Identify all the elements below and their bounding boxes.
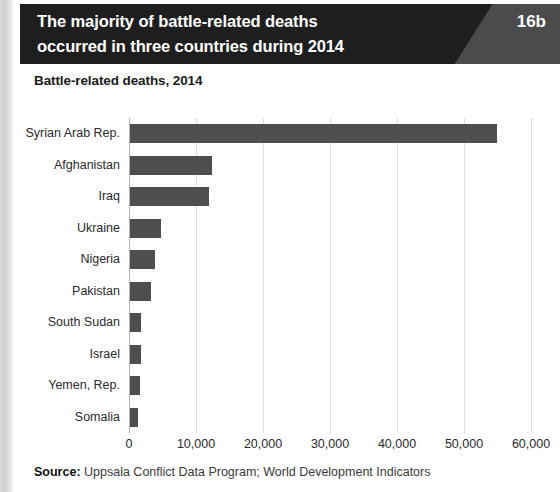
bar-row: South Sudan [129,307,532,339]
bar-chart-plot-area: Syrian Arab Rep.AfghanistanIraqUkraineNi… [129,118,532,433]
bar [130,376,140,395]
bar [130,282,151,301]
figure-header-title: The majority of battle-related deaths oc… [37,9,457,59]
bar [130,156,212,175]
page-sheet: The majority of battle-related deaths oc… [13,0,560,492]
figure-number-badge: 16b [517,12,546,32]
figure-header-bar: The majority of battle-related deaths oc… [20,4,560,64]
x-tick-label: 10,000 [177,437,215,451]
bar [130,219,161,238]
category-label: Syrian Arab Rep. [26,124,121,143]
category-label: Afghanistan [54,156,120,175]
bar-row: Syrian Arab Rep. [129,118,532,150]
bar [130,124,497,143]
bar-row: Israel [129,339,532,371]
bar-row: Somalia [129,402,532,434]
x-tick-label: 40,000 [378,437,416,451]
bar-row: Ukraine [129,213,532,245]
x-tick-label: 60,000 [512,437,550,451]
bar [130,250,155,269]
category-label: Iraq [98,187,120,206]
bar-row: Iraq [129,181,532,213]
category-label: Yemen, Rep. [48,376,120,395]
category-label: South Sudan [48,313,120,332]
bar-row: Yemen, Rep. [129,370,532,402]
bar-row: Pakistan [129,276,532,308]
category-label: Pakistan [72,282,120,301]
bar [130,408,138,427]
source-note: Source: Uppsala Conflict Data Program; W… [34,465,430,479]
bar [130,187,209,206]
x-tick-label: 0 [126,437,133,451]
bar-row: Nigeria [129,244,532,276]
x-tick-label: 20,000 [244,437,282,451]
x-tick-label: 30,000 [311,437,349,451]
source-label: Source: [34,465,81,479]
bar [130,345,141,364]
category-label: Ukraine [77,219,120,238]
category-label: Israel [89,345,120,364]
source-text: Uppsala Conflict Data Program; World Dev… [81,465,431,479]
page-scan-gutter [0,0,13,492]
figure-header-title-line2: occurred in three countries during 2014 [37,34,457,59]
bar-row: Afghanistan [129,150,532,182]
category-label: Nigeria [80,250,120,269]
category-label: Somalia [75,408,120,427]
x-tick-label: 50,000 [445,437,483,451]
chart-title: Battle-related deaths, 2014 [34,73,202,88]
figure-header-title-line1: The majority of battle-related deaths [37,9,457,34]
bar [130,313,141,332]
